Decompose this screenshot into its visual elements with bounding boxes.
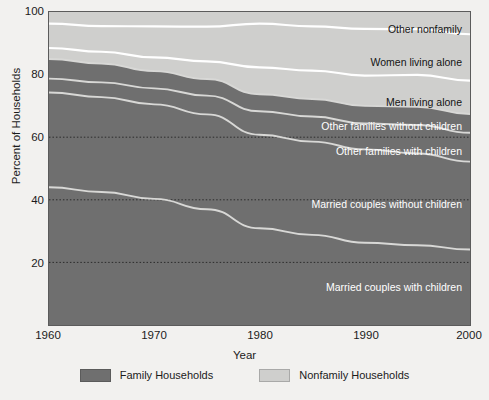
legend-label-family: Family Households: [120, 369, 214, 381]
chart-figure: Percent of Households 100 80 60 40 20 Ot…: [0, 0, 489, 400]
x-tick-1980: 1980: [230, 330, 290, 342]
y-tick-80: 80: [10, 69, 44, 81]
x-axis: 1960 1970 1980 1990 2000: [0, 330, 489, 350]
legend-item-family-households: Family Households: [80, 369, 214, 382]
legend-swatch-family: [80, 369, 111, 382]
y-axis: Percent of Households 100 80 60 40 20: [0, 0, 44, 340]
x-tick-1960: 1960: [18, 330, 78, 342]
legend-label-nonfamily: Nonfamily Households: [299, 369, 409, 381]
y-tick-20: 20: [10, 258, 44, 270]
x-tick-1990: 1990: [336, 330, 396, 342]
y-tick-60: 60: [10, 132, 44, 144]
x-axis-title: Year: [0, 349, 489, 361]
plot-area: Other nonfamily Women living alone Men l…: [48, 11, 471, 326]
chart-legend: Family Households Nonfamily Households: [0, 366, 489, 384]
y-tick-40: 40: [10, 195, 44, 207]
legend-item-nonfamily-households: Nonfamily Households: [259, 369, 409, 382]
y-tick-100: 100: [10, 6, 44, 18]
x-tick-2000: 2000: [439, 330, 489, 342]
legend-swatch-nonfamily: [259, 369, 290, 382]
x-tick-1970: 1970: [124, 330, 184, 342]
stacked-area-plot: [49, 12, 470, 325]
